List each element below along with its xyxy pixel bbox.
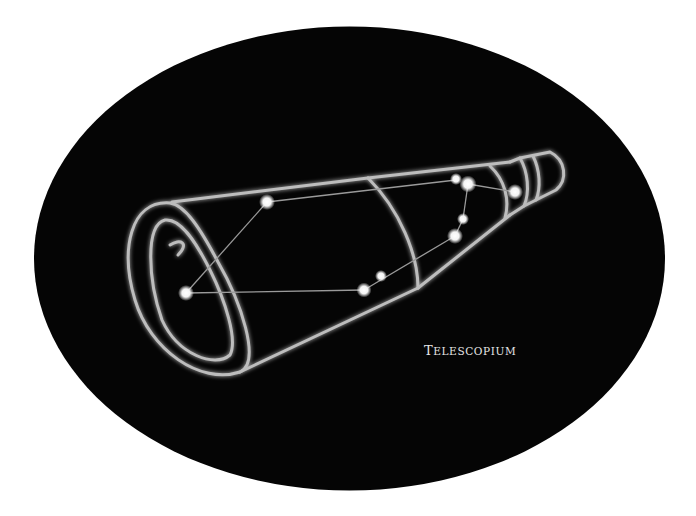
- star: [460, 176, 477, 193]
- star: [507, 184, 523, 200]
- label-rest: ELESCOPIUM: [433, 345, 516, 357]
- star: [457, 213, 469, 225]
- star: [447, 228, 463, 244]
- constellation-name-label: TELESCOPIUM: [424, 343, 516, 358]
- label-initial: T: [424, 343, 433, 358]
- star: [178, 285, 194, 301]
- star: [357, 283, 372, 298]
- star: [259, 194, 275, 210]
- star: [375, 270, 387, 282]
- constellation-illustration: [0, 0, 696, 516]
